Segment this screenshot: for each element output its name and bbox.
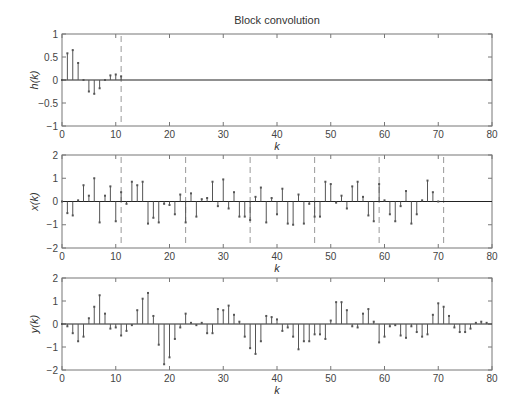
stem-marker xyxy=(131,181,133,183)
x-tick-label: 50 xyxy=(325,251,337,262)
stem-marker xyxy=(341,195,343,197)
stem-marker xyxy=(384,199,386,201)
stem-marker xyxy=(66,325,68,327)
stem-marker xyxy=(319,216,321,218)
stem-marker xyxy=(158,344,160,346)
subplot-xk: 01020304050607080−2−1012kx(k) xyxy=(28,150,498,275)
y-tick-label: −2 xyxy=(47,365,59,376)
y-tick-label: 1 xyxy=(52,173,58,184)
stem-marker xyxy=(72,49,74,51)
stem-marker xyxy=(174,213,176,215)
stem-marker xyxy=(104,313,106,315)
stem-marker xyxy=(260,340,262,342)
stem-marker xyxy=(190,322,192,324)
stem-marker xyxy=(249,219,251,221)
stem-marker xyxy=(109,185,111,187)
x-tick-label: 0 xyxy=(59,251,65,262)
x-tick-label: 50 xyxy=(325,373,337,384)
stem-marker xyxy=(61,323,63,325)
stem-marker xyxy=(179,326,181,328)
stem-marker xyxy=(389,213,391,215)
stem-marker xyxy=(190,192,192,194)
stem-marker xyxy=(77,62,79,64)
stem-marker xyxy=(228,207,230,209)
stem-marker xyxy=(459,331,461,333)
stem-marker xyxy=(271,316,273,318)
stem-marker xyxy=(136,309,138,311)
x-tick-label: 70 xyxy=(433,251,445,262)
stem-marker xyxy=(378,341,380,343)
stem-marker xyxy=(276,213,278,215)
stem-marker xyxy=(298,194,300,196)
stem-marker xyxy=(61,201,63,203)
stem-marker xyxy=(480,321,482,323)
stem-marker xyxy=(163,203,165,205)
stem-marker xyxy=(136,184,138,186)
stem-marker xyxy=(174,338,176,340)
x-tick-label: 80 xyxy=(486,251,498,262)
stem-marker xyxy=(260,187,262,189)
stem-marker xyxy=(475,322,477,324)
stem-marker xyxy=(147,292,149,294)
subplots: 01020304050607080−1−0.500.51kh(k)0102030… xyxy=(28,29,498,397)
stem-marker xyxy=(405,337,407,339)
stem-marker xyxy=(265,221,267,223)
chart-title: Block convolution xyxy=(234,14,320,26)
stem-marker xyxy=(61,79,63,81)
stem-marker xyxy=(104,195,106,197)
stem-marker xyxy=(195,216,197,218)
stem-marker xyxy=(410,223,412,225)
stem-marker xyxy=(394,220,396,222)
stem-marker xyxy=(233,191,235,193)
stem-marker xyxy=(373,321,375,323)
y-tick-label: 0 xyxy=(52,319,58,330)
x-tick-label: 20 xyxy=(164,251,176,262)
stem-marker xyxy=(233,314,235,316)
x-tick-label: 30 xyxy=(218,373,230,384)
stem-marker xyxy=(421,199,423,201)
x-tick-label: 40 xyxy=(271,129,283,140)
y-tick-label: 1 xyxy=(52,296,58,307)
stem-marker xyxy=(464,331,466,333)
stem-marker xyxy=(212,181,214,183)
stem-marker xyxy=(212,332,214,334)
stem-marker xyxy=(120,191,122,193)
stem-marker xyxy=(362,313,364,315)
stem-marker xyxy=(244,336,246,338)
stem-marker xyxy=(324,181,326,183)
stem-marker xyxy=(341,301,343,303)
stem-marker xyxy=(88,91,90,93)
stem-marker xyxy=(346,207,348,209)
stem-marker xyxy=(416,331,418,333)
stem-marker xyxy=(169,204,171,206)
stem-marker xyxy=(88,195,90,197)
x-tick-label: 80 xyxy=(486,373,498,384)
stem-marker xyxy=(249,347,251,349)
stem-marker xyxy=(292,224,294,226)
y-tick-label: 0 xyxy=(52,196,58,207)
stem-marker xyxy=(292,336,294,338)
y-axis-label: y(k) xyxy=(28,315,40,335)
x-tick-label: 60 xyxy=(379,373,391,384)
stem-marker xyxy=(362,196,364,198)
stem-marker xyxy=(255,353,257,355)
stem-marker xyxy=(244,216,246,218)
stem-marker xyxy=(72,332,74,334)
stem-marker xyxy=(115,220,117,222)
stem-marker xyxy=(99,294,101,296)
stem-marker xyxy=(126,203,128,205)
stem-marker xyxy=(109,74,111,76)
stem-marker xyxy=(88,317,90,319)
stem-marker xyxy=(228,305,230,307)
stem-marker xyxy=(238,216,240,218)
stem-marker xyxy=(152,217,154,219)
stem-marker xyxy=(217,308,219,310)
x-tick-label: 0 xyxy=(59,129,65,140)
y-tick-label: −2 xyxy=(47,243,59,254)
stem-marker xyxy=(281,330,283,332)
y-tick-label: 2 xyxy=(52,273,58,284)
x-tick-label: 70 xyxy=(433,373,445,384)
stem-marker xyxy=(367,308,369,310)
stem-marker xyxy=(66,212,68,214)
x-axis-label: k xyxy=(274,262,280,274)
